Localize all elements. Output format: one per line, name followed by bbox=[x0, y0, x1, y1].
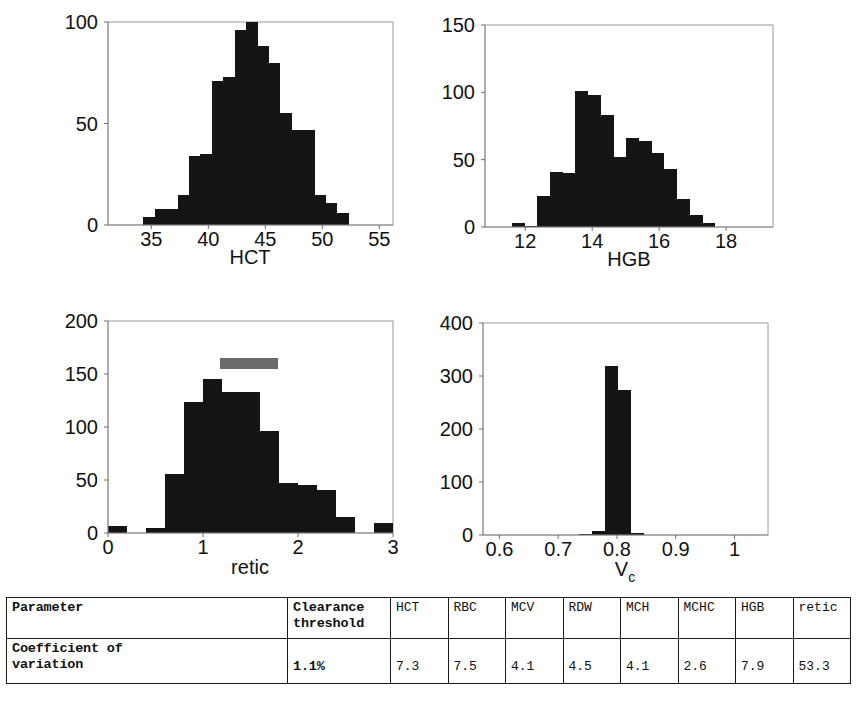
cell-rdw: 4.5 bbox=[563, 639, 621, 684]
x-axis-title: HCT bbox=[229, 246, 270, 268]
header-measure-rdw: RDW bbox=[563, 598, 621, 639]
x-tick-label: 0.7 bbox=[544, 538, 572, 560]
x-tick-label: 0.9 bbox=[662, 538, 690, 560]
histogram-bar bbox=[605, 366, 618, 535]
y-tick-label: 0 bbox=[87, 522, 98, 544]
histogram-bar bbox=[618, 390, 631, 535]
cell-hct: 7.3 bbox=[391, 639, 449, 684]
chart-retic: 0123050100150200retic bbox=[65, 310, 399, 578]
histogram-bar bbox=[601, 115, 614, 227]
header-measure-mch: MCH bbox=[621, 598, 679, 639]
y-tick-label: 300 bbox=[440, 365, 473, 387]
y-tick-label: 100 bbox=[442, 81, 475, 103]
y-tick-label: 200 bbox=[65, 310, 98, 332]
histogram-bar bbox=[336, 517, 355, 533]
bars-hct bbox=[143, 22, 348, 225]
histogram-bar bbox=[279, 483, 298, 533]
y-tick-label: 150 bbox=[65, 363, 98, 385]
header-measure-rbc: RBC bbox=[448, 598, 506, 639]
x-tick-label: 55 bbox=[368, 228, 390, 250]
x-tick-label: 14 bbox=[581, 230, 603, 252]
histogram-bar bbox=[241, 392, 260, 533]
x-tick-label: 0 bbox=[102, 536, 113, 558]
histogram-bar bbox=[639, 141, 652, 227]
header-clearance-line2: threshold bbox=[293, 616, 364, 631]
cell-retic: 53.3 bbox=[793, 639, 851, 684]
y-tick-label: 150 bbox=[442, 14, 475, 36]
x-axis-title: retic bbox=[231, 556, 269, 578]
cell-clearance-threshold: 1.1% bbox=[288, 639, 391, 684]
y-tick-label: 0 bbox=[464, 216, 475, 238]
x-tick-label: 0.8 bbox=[603, 538, 631, 560]
x-tick-label: 1 bbox=[197, 536, 208, 558]
histogram-bar bbox=[155, 209, 167, 225]
chart-hct: 3540455055050100HCT bbox=[65, 11, 393, 268]
y-tick-label: 0 bbox=[462, 524, 473, 546]
cell-hgb: 7.9 bbox=[736, 639, 794, 684]
histogram-bar bbox=[143, 217, 155, 225]
histogram-bar bbox=[626, 138, 639, 227]
header-parameter: Parameter bbox=[7, 598, 288, 639]
histogram-bar bbox=[537, 196, 550, 227]
chart-vc: 0.60.70.80.910100200300400Vc bbox=[440, 312, 768, 585]
histogram-bar bbox=[292, 130, 304, 225]
histogram-bar bbox=[184, 402, 203, 533]
histogram-bar bbox=[200, 154, 212, 225]
histogram-bar bbox=[677, 199, 690, 227]
histogram-bar bbox=[260, 431, 279, 533]
histogram-bar bbox=[614, 157, 627, 227]
x-tick-label: 35 bbox=[140, 228, 162, 250]
histogram-bar bbox=[235, 30, 247, 225]
cell-mcv: 4.1 bbox=[506, 639, 564, 684]
header-measure-hct: HCT bbox=[391, 598, 449, 639]
histogram-bar bbox=[189, 156, 201, 225]
cell-mch: 4.1 bbox=[621, 639, 679, 684]
cell-mchc: 2.6 bbox=[678, 639, 736, 684]
histogram-bar bbox=[203, 379, 222, 533]
histogram-bar bbox=[374, 523, 393, 533]
histogram-bar bbox=[652, 153, 665, 227]
histogram-bar bbox=[314, 195, 326, 225]
x-tick-label: 40 bbox=[197, 228, 219, 250]
histogram-bar bbox=[280, 113, 292, 225]
chart-hgb: 12141618050100150HGB bbox=[442, 14, 773, 270]
histogram-bar bbox=[550, 172, 563, 227]
histogram-bar bbox=[146, 528, 165, 533]
x-tick-label: 1 bbox=[729, 538, 740, 560]
histogram-bar bbox=[269, 63, 281, 225]
histogram-bar bbox=[108, 526, 127, 533]
x-tick-label: 16 bbox=[648, 230, 670, 252]
y-tick-label: 50 bbox=[76, 113, 98, 135]
header-measure-hgb: HGB bbox=[736, 598, 794, 639]
x-tick-label: 0.6 bbox=[486, 538, 514, 560]
row-label-coefficient-of-variation: Coefficient of variation bbox=[7, 639, 288, 684]
header-measure-retic: retic bbox=[793, 598, 851, 639]
histogram-bar bbox=[223, 77, 235, 225]
y-tick-label: 0 bbox=[87, 214, 98, 236]
histogram-bar bbox=[298, 485, 317, 533]
histogram-bar bbox=[588, 95, 601, 227]
header-measure-mcv: MCV bbox=[506, 598, 564, 639]
histogram-bar bbox=[178, 195, 190, 225]
row-label-line2: variation bbox=[12, 657, 83, 672]
table-row: Coefficient of variation 1.1% 7.3 7.5 4.… bbox=[7, 639, 851, 684]
histogram-bar bbox=[326, 203, 338, 225]
y-tick-label: 200 bbox=[440, 418, 473, 440]
bars-hgb bbox=[512, 91, 716, 227]
histogram-bar bbox=[337, 213, 349, 225]
figure-panel-grid: 3540455055050100HCT12141618050100150HGB0… bbox=[0, 0, 862, 701]
histogram-bar bbox=[166, 209, 178, 225]
histogram-figure: 3540455055050100HCT12141618050100150HGB0… bbox=[0, 0, 862, 600]
row-label-line1: Coefficient of bbox=[12, 641, 123, 656]
histogram-bar bbox=[690, 215, 703, 227]
histogram-bar bbox=[212, 81, 224, 225]
y-tick-label: 400 bbox=[440, 312, 473, 334]
histogram-bar bbox=[246, 22, 258, 225]
histogram-bar bbox=[664, 169, 677, 227]
x-tick-label: 50 bbox=[311, 228, 333, 250]
x-tick-label: 3 bbox=[387, 536, 398, 558]
y-tick-label: 50 bbox=[453, 149, 475, 171]
histogram-bar bbox=[257, 46, 269, 225]
y-tick-label: 100 bbox=[65, 11, 98, 33]
header-clearance-line1: Clearance bbox=[293, 600, 364, 615]
